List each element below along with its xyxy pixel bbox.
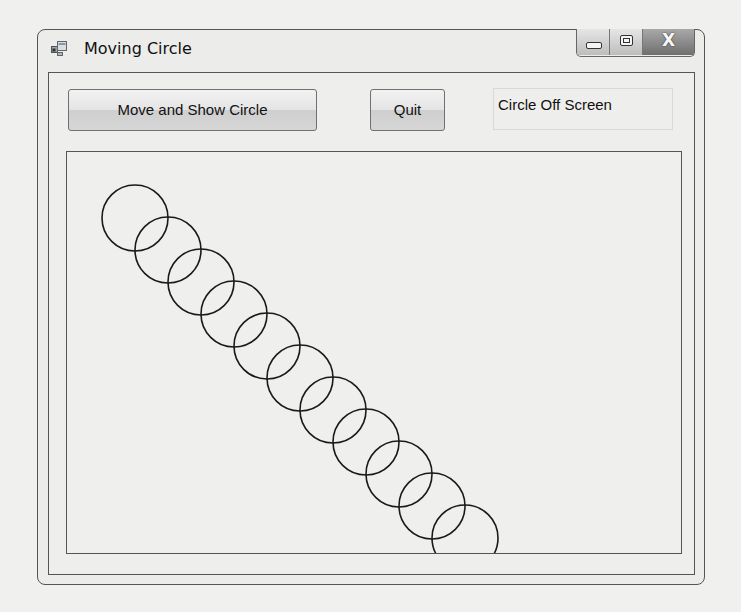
drawing-canvas[interactable]	[66, 151, 682, 554]
move-and-show-circle-button[interactable]: Move and Show Circle	[68, 89, 317, 131]
maximize-icon	[620, 35, 633, 46]
maximize-button[interactable]	[610, 29, 643, 55]
minimize-icon	[586, 42, 602, 49]
title-bar[interactable]: Moving Circle X	[38, 30, 704, 72]
minimize-button[interactable]	[577, 29, 610, 55]
close-icon: X	[643, 30, 694, 50]
caption-buttons: X	[576, 29, 695, 57]
close-button[interactable]: X	[643, 29, 694, 55]
form-client-area: Move and Show Circle Quit Circle Off Scr…	[48, 72, 695, 575]
window-title: Moving Circle	[84, 39, 192, 58]
app-window: Moving Circle X Move and Show Circle Qui…	[37, 29, 705, 585]
status-label: Circle Off Screen	[493, 88, 673, 130]
circles-drawing	[67, 152, 682, 554]
app-window-icon[interactable]	[51, 41, 67, 57]
quit-button[interactable]: Quit	[370, 89, 445, 131]
